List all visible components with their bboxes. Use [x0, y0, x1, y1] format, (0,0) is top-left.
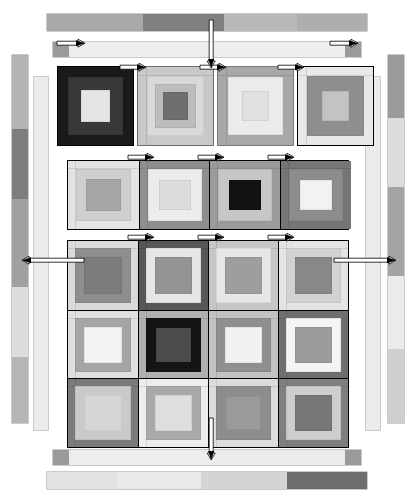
right-outer-border-strip-segment-5: [388, 349, 404, 423]
main-quilt-center-grid: [67, 240, 349, 448]
block-row2-4-ring-3: [300, 180, 332, 210]
block-top-1-seam-b: [58, 75, 133, 76]
block-top-3-seam-a: [226, 67, 227, 145]
top-outer-border-strip-segment-1: [47, 14, 143, 31]
block-r3c3: [208, 378, 278, 447]
block-top-3-ring-3: [242, 91, 269, 121]
bottom-outer-border-strip-segment-2: [117, 472, 200, 489]
arrow-right-side: [334, 255, 402, 266]
block-r1c1: [68, 241, 138, 310]
bottom-inner-border-strip-segment-3: [209, 450, 345, 465]
arrow-row3-1: [128, 232, 160, 243]
right-outer-border-strip-segment-4: [388, 276, 404, 350]
block-r3c1: [68, 378, 138, 447]
block-r2c1-ring-3: [84, 327, 122, 363]
left-outer-border-strip-segment-5: [12, 357, 28, 423]
block-r3c1-ring-3: [84, 395, 122, 431]
block-r3c3-ring-3: [226, 396, 261, 430]
right-outer-border-strip: [388, 55, 404, 423]
block-top-3: [217, 66, 294, 146]
arrow-top-strip-right: [330, 38, 364, 49]
block-r2c4-ring-3: [295, 327, 332, 363]
left-outer-border-strip-segment-4: [12, 287, 28, 357]
left-inner-border-strip-segment-1: [34, 77, 48, 430]
arrow-left-side: [22, 255, 90, 266]
left-outer-border-strip-segment-1: [12, 55, 28, 129]
block-r1c2-ring-3: [155, 257, 192, 294]
block-r2c2-ring-3: [156, 328, 191, 362]
block-row2-1-ring-3: [86, 179, 121, 211]
arrow-row2-3: [268, 152, 300, 163]
block-r2c2: [138, 310, 208, 379]
bottom-inner-border-strip-segment-1: [53, 450, 69, 465]
block-r3c2-ring-3: [155, 395, 192, 431]
top-outer-border-strip-segment-4: [297, 14, 367, 31]
arrow-row3-2: [198, 232, 230, 243]
block-top-4: [297, 66, 374, 146]
block-r3c4-ring-3: [295, 395, 332, 431]
block-r1c4: [278, 241, 348, 310]
arrow-bottom-vertical: [206, 418, 217, 466]
bottom-inner-border-strip-segment-2: [69, 450, 208, 465]
bottom-outer-border-strip-segment-3: [201, 472, 287, 489]
left-outer-border-strip-segment-3: [12, 199, 28, 287]
bottom-inner-border-strip-segment-4: [345, 450, 361, 465]
arrow-top-vertical: [206, 20, 217, 74]
block-r3c4: [278, 378, 348, 447]
block-top-2: [137, 66, 214, 146]
arrow-toprow-3: [278, 62, 310, 73]
arrow-row2-2: [198, 152, 230, 163]
block-r1c2: [138, 241, 208, 310]
block-row2-4: [280, 161, 351, 229]
left-outer-border-strip-segment-2: [12, 129, 28, 199]
block-r2c3: [208, 310, 278, 379]
block-r2c3-ring-3: [225, 327, 262, 363]
block-row2-3: [209, 161, 280, 229]
block-row2-3-ring-3: [229, 180, 261, 210]
left-inner-border-strip: [34, 77, 48, 430]
top-outer-border-strip-segment-3: [224, 14, 297, 31]
block-r2c1: [68, 310, 138, 379]
bottom-outer-border-strip: [47, 472, 367, 489]
arrow-toprow-1: [120, 62, 152, 73]
detached-second-block-row: [67, 160, 349, 230]
block-r3c2: [138, 378, 208, 447]
block-row2-1: [68, 161, 139, 229]
block-row2-2: [139, 161, 210, 229]
arrow-row2-1: [128, 152, 160, 163]
block-r1c3-ring-3: [225, 257, 262, 294]
block-row2-2-ring-3: [159, 180, 191, 210]
left-outer-border-strip: [12, 55, 28, 423]
bottom-outer-border-strip-segment-4: [287, 472, 367, 489]
block-top-4-ring-3: [322, 91, 349, 121]
block-top-3-seam-b: [218, 75, 293, 76]
bottom-outer-border-strip-segment-1: [47, 472, 117, 489]
arrow-row3-3: [268, 232, 300, 243]
quilt-diagram-canvas: [0, 0, 414, 499]
top-inner-border-strip-segment-3: [209, 42, 345, 57]
block-top-1-ring-3: [81, 90, 110, 122]
right-outer-border-strip-segment-2: [388, 118, 404, 188]
right-outer-border-strip-segment-1: [388, 55, 404, 118]
block-r1c3: [208, 241, 278, 310]
block-top-1-seam-a: [66, 67, 67, 145]
block-r1c4-ring-3: [295, 257, 332, 294]
block-top-2-ring-4: [163, 92, 188, 120]
arrow-top-strip-left: [57, 38, 91, 49]
block-r2c4: [278, 310, 348, 379]
block-top-1: [57, 66, 134, 146]
